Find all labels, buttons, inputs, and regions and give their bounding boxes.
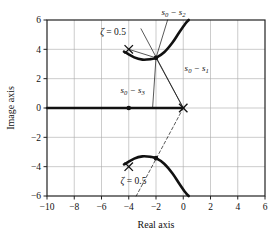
x-tick-label: −2 [151, 202, 161, 212]
y-tick-label: −2 [31, 133, 41, 143]
y-tick-label: 0 [36, 103, 41, 113]
x-tick-label: 6 [263, 202, 268, 212]
y-tick-label: −6 [31, 191, 41, 201]
x-tick-label: −6 [96, 202, 106, 212]
x-tick-label: 4 [235, 202, 240, 212]
y-tick-label: 6 [36, 15, 41, 25]
x-axis-title: Real axis [138, 219, 175, 230]
label-s0-s2: s0 − s2 [161, 7, 186, 18]
y-tick-labels: −6−4−20246 [31, 15, 41, 201]
y-tick-label: 4 [36, 45, 41, 55]
root-locus-figure: −10−8−6−4−20246 −6−4−20246 s0 − s2s0 − s… [0, 0, 280, 240]
y-tick-label: −4 [31, 162, 41, 172]
test-point-dot-real [126, 106, 131, 111]
x-tick-label: 2 [208, 202, 213, 212]
x-tick-label: 0 [181, 202, 186, 212]
label-zeta-lower: ζ = 0.5 [121, 176, 147, 187]
x-tick-label: −8 [69, 202, 79, 212]
test-point-dot-upper [154, 56, 159, 61]
test-point-dot-lower [154, 156, 159, 161]
x-tick-label: −10 [40, 202, 55, 212]
y-tick-label: 2 [36, 74, 41, 84]
x-tick-labels: −10−8−6−4−20246 [40, 202, 268, 212]
x-tick-label: −4 [124, 202, 134, 212]
y-axis-title: Image axis [5, 86, 16, 130]
label-zeta-upper: ζ = 0.5 [100, 27, 126, 38]
root-locus-plot: −10−8−6−4−20246 −6−4−20246 s0 − s2s0 − s… [0, 0, 280, 240]
